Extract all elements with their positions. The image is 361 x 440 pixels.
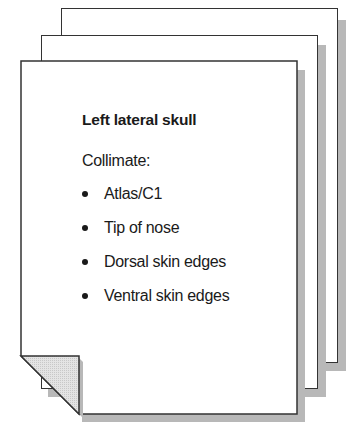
bullet-icon [82,259,88,265]
list-item-label: Atlas/C1 [104,185,162,202]
list-item-label: Tip of nose [104,219,179,236]
front-page-shadow-right [297,70,305,422]
collimate-list: Atlas/C1 Tip of nose Dorsal skin edges V… [82,185,292,305]
bullet-icon [82,191,88,197]
list-item-label: Dorsal skin edges [104,253,226,270]
card-content: Left lateral skull Collimate: Atlas/C1 T… [82,111,292,321]
list-item: Ventral skin edges [82,287,292,305]
list-item: Atlas/C1 [82,185,292,203]
list-item: Dorsal skin edges [82,253,292,271]
stacked-pages-illustration: Left lateral skull Collimate: Atlas/C1 T… [0,0,361,440]
card-subtitle: Collimate: [82,152,292,170]
list-item-label: Ventral skin edges [104,287,229,304]
card-title: Left lateral skull [82,111,292,129]
bullet-icon [82,293,88,299]
folded-corner-icon [21,356,79,414]
list-item: Tip of nose [82,219,292,237]
front-page-shadow-bottom [82,414,305,422]
bullet-icon [82,225,88,231]
